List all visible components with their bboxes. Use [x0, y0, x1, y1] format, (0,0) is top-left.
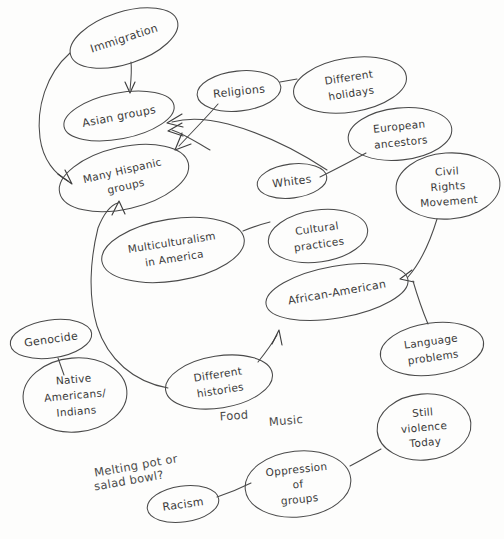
arrowhead-immigration-to-hispanic	[58, 170, 72, 184]
edge-civilrights-to-language	[413, 281, 428, 324]
node-label-line1: European	[372, 117, 425, 134]
node-ellipse	[162, 348, 277, 416]
edge-religions-to-holidays	[280, 79, 297, 82]
node-label-line1: Still	[412, 405, 434, 419]
node-ellipse	[265, 203, 371, 268]
node-label-line2: of	[292, 477, 304, 490]
node-label-line1: Civil	[435, 164, 460, 178]
edge-immigration-to-hispanic	[39, 53, 70, 181]
node-civil-rights-movement[interactable]: Civil Rights Movement	[394, 149, 502, 222]
node-label-line2: Americans/	[44, 386, 107, 403]
node-racism[interactable]: Racism	[145, 481, 221, 527]
node-label-line2: practices	[293, 234, 345, 253]
node-ellipse	[346, 103, 455, 166]
node-genocide[interactable]: Genocide	[8, 314, 94, 363]
edge-immigration-to-asian	[130, 62, 131, 90]
node-immigration[interactable]: Immigration	[63, 0, 186, 80]
edge-whites-region-to-asian	[172, 119, 327, 170]
node-different-histories[interactable]: Different histories	[162, 348, 277, 416]
node-many-hispanic-groups[interactable]: Many Hispanic groups	[53, 133, 196, 223]
arrowhead-histories-to-hispanic	[112, 201, 125, 215]
arrowhead-histories-to-african	[272, 330, 282, 345]
node-label-line2: Rights	[430, 179, 466, 193]
node-still-violence-today[interactable]: Still violence Today	[374, 390, 473, 464]
node-native-americans-indians[interactable]: Native Americans/ Indians	[20, 354, 130, 437]
concept-map-canvas: Immigration Asian groups Many Hispanic g…	[0, 0, 504, 539]
edge-racism-to-oppression	[217, 483, 251, 497]
edge-religions-to-hispanic	[179, 104, 218, 146]
edge-european-to-whites	[320, 153, 366, 177]
node-oppression-of-groups[interactable]: Oppression of groups	[242, 446, 354, 523]
node-label: Racism	[162, 495, 205, 514]
node-label-line1: Cultural	[294, 219, 339, 237]
node-ellipse	[377, 316, 487, 382]
node-religions[interactable]: Religions	[195, 67, 283, 116]
node-language-problems[interactable]: Language problems	[377, 316, 487, 382]
edge-multiculturalism-to-cultural	[243, 222, 270, 231]
node-label: African-American	[287, 277, 387, 307]
node-label-line2: histories	[196, 380, 245, 399]
concept-map-svg: Immigration Asian groups Many Hispanic g…	[0, 0, 504, 539]
node-label: Immigration	[89, 21, 160, 55]
node-label-line1: Native	[55, 372, 92, 387]
node-label: Asian groups	[81, 103, 157, 130]
node-label: Genocide	[23, 329, 79, 349]
node-label-line1: Oppression	[265, 460, 328, 478]
node-label-line2: groups	[106, 176, 145, 196]
node-label-line2: violence	[400, 419, 447, 435]
node-label-line3: Today	[408, 435, 442, 450]
node-ellipse	[97, 208, 249, 292]
edge-civilrights-to-african	[408, 219, 437, 277]
node-ellipse	[53, 133, 196, 223]
node-label-line3: Indians	[56, 403, 97, 418]
node-label-line2: holidays	[328, 83, 375, 102]
free-label-music: Music	[268, 412, 303, 429]
free-labels-layer: Food Music Melting pot or salad bowl?	[93, 408, 304, 494]
node-asian-groups[interactable]: Asian groups	[60, 83, 179, 150]
node-african-american[interactable]: African-American	[262, 254, 413, 330]
node-ellipse	[289, 49, 410, 120]
node-cultural-practices[interactable]: Cultural practices	[265, 203, 371, 268]
node-different-holidays[interactable]: Different holidays	[289, 49, 410, 120]
node-european-ancestors[interactable]: European ancestors	[346, 103, 455, 166]
node-label-line3: groups	[280, 491, 319, 507]
edge-oppression-to-violence	[350, 449, 381, 466]
node-whites[interactable]: Whites	[255, 160, 329, 202]
nodes-layer: Immigration Asian groups Many Hispanic g…	[8, 0, 502, 527]
node-label: Religions	[212, 82, 265, 100]
node-label-line3: Movement	[420, 193, 479, 209]
node-label-line2: ancestors	[373, 133, 428, 151]
node-label: Whites	[272, 173, 313, 191]
node-multiculturalism-in-america[interactable]: Multiculturalism in America	[97, 208, 249, 292]
node-label-line2: problems	[407, 347, 459, 366]
free-label-food: Food	[219, 408, 249, 424]
